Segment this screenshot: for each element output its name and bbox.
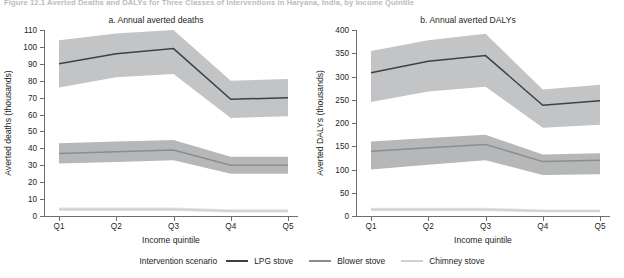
- x-tick-mark: [231, 217, 232, 221]
- panel-averted-deaths: a. Annual averted deaths Averted deaths …: [0, 13, 312, 253]
- panel-b-y-tick-labels: 050100150200250300350400: [326, 30, 352, 216]
- y-tick-label: 20: [28, 178, 37, 187]
- x-tick-label: Q2: [423, 222, 434, 231]
- panel-a-plot: Averted deaths (thousands) 0102030405060…: [0, 30, 312, 253]
- y-tick-label: 30: [28, 161, 37, 170]
- x-tick-mark: [371, 217, 372, 221]
- x-tick-mark: [428, 217, 429, 221]
- y-tick-label: 60: [28, 110, 37, 119]
- x-tick-label: Q2: [111, 222, 122, 231]
- y-tick-label: 0: [32, 212, 37, 221]
- legend-line-icon: [401, 260, 423, 262]
- x-tick-mark: [543, 217, 544, 221]
- y-tick-label: 70: [28, 93, 37, 102]
- y-tick-label: 50: [28, 127, 37, 136]
- panel-b-plot-area: [357, 30, 610, 216]
- panel-a-x-axis-label: Income quintile: [44, 235, 298, 245]
- y-tick-label: 80: [28, 76, 37, 85]
- panel-b-y-axis-label-text: Averted DALYs (thousands): [315, 70, 325, 176]
- legend-item-blower-stove[interactable]: Blower stove: [309, 256, 385, 266]
- panel-a-y-axis-label: Averted deaths (thousands): [2, 30, 14, 216]
- panel-averted-dalys: b. Annual averted DALYs Averted DALYs (t…: [312, 13, 624, 253]
- y-tick-label: 350: [335, 49, 349, 58]
- x-tick-label: Q1: [54, 222, 65, 231]
- y-tick-label: 0: [344, 212, 349, 221]
- x-tick-label: Q3: [168, 222, 179, 231]
- legend-item-chimney-stove[interactable]: Chimney stove: [401, 256, 484, 266]
- legend-label: Chimney stove: [429, 256, 484, 266]
- y-tick-label: 400: [335, 26, 349, 35]
- y-tick-label: 40: [28, 144, 37, 153]
- x-tick-mark: [116, 217, 117, 221]
- figure-caption: Figure 12.1 Averted Deaths and DALYs for…: [4, 0, 620, 7]
- panel-a-x-tick-labels: Q1Q2Q3Q4Q5: [44, 222, 298, 234]
- chart-legend: Intervention scenario LPG stove Blower s…: [0, 256, 624, 266]
- x-tick-mark: [174, 217, 175, 221]
- x-tick-label: Q5: [283, 222, 294, 231]
- panel-b-x-axis-label: Income quintile: [356, 235, 610, 245]
- confidence-band: [59, 140, 288, 174]
- panel-a-title: a. Annual averted deaths: [0, 15, 312, 25]
- legend-line-icon: [226, 260, 248, 262]
- y-tick-label: 300: [335, 72, 349, 81]
- x-tick-mark: [59, 217, 60, 221]
- y-tick-label: 250: [335, 95, 349, 104]
- panel-a-x-tick-marks: [44, 217, 298, 221]
- panel-a-y-axis-label-text: Averted deaths (thousands): [3, 70, 13, 175]
- panel-a-plot-area: [45, 30, 298, 216]
- confidence-band: [59, 208, 288, 213]
- x-tick-label: Q1: [366, 222, 377, 231]
- y-tick-label: 150: [335, 142, 349, 151]
- x-tick-mark: [600, 217, 601, 221]
- legend-label: LPG stove: [254, 256, 293, 266]
- chart-panels: a. Annual averted deaths Averted deaths …: [0, 13, 624, 253]
- confidence-band: [371, 135, 600, 175]
- x-tick-mark: [486, 217, 487, 221]
- y-tick-label: 200: [335, 119, 349, 128]
- x-tick-mark: [288, 217, 289, 221]
- panel-a-y-tick-labels: 0102030405060708090100110: [14, 30, 40, 216]
- legend-item-lpg-stove[interactable]: LPG stove: [226, 256, 293, 266]
- x-tick-label: Q3: [480, 222, 491, 231]
- panel-b-y-axis-label: Averted DALYs (thousands): [314, 30, 326, 216]
- legend-line-icon: [309, 260, 331, 262]
- legend-label: Blower stove: [337, 256, 385, 266]
- x-tick-label: Q5: [595, 222, 606, 231]
- confidence-band: [59, 30, 288, 118]
- x-tick-label: Q4: [537, 222, 548, 231]
- panel-b-plot: Averted DALYs (thousands) 05010015020025…: [312, 30, 624, 253]
- confidence-band: [371, 34, 600, 128]
- panel-b-x-tick-marks: [356, 217, 610, 221]
- y-tick-label: 100: [335, 165, 349, 174]
- panel-b-x-tick-labels: Q1Q2Q3Q4Q5: [356, 222, 610, 234]
- x-tick-label: Q4: [225, 222, 236, 231]
- y-tick-label: 50: [340, 188, 349, 197]
- panel-b-title: b. Annual averted DALYs: [312, 15, 624, 25]
- y-tick-label: 10: [28, 195, 37, 204]
- y-tick-label: 110: [24, 26, 37, 35]
- y-tick-label: 90: [28, 59, 37, 68]
- legend-title: Intervention scenario: [139, 256, 217, 266]
- y-tick-label: 100: [23, 42, 37, 51]
